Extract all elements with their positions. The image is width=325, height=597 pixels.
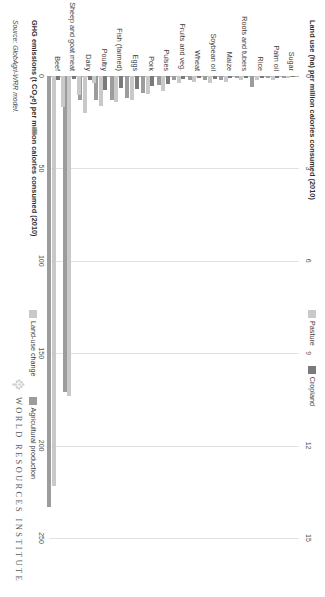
wri-brand: WORLD RESOURCES INSTITUTE: [12, 378, 25, 583]
category-label: Roots and tubers: [240, 16, 249, 71]
bar-row: Maize: [221, 76, 237, 538]
bottom-tick-label: 100: [38, 255, 45, 267]
legend-label-pasture: Pasture: [308, 321, 317, 346]
bar-pasture: [77, 76, 81, 95]
legend-item-pasture: Pasture: [308, 310, 317, 346]
legend-label-land-use-change: Land-use change: [29, 321, 38, 377]
legend-item-cropland: Cropland: [308, 366, 317, 406]
category-label: Maize: [224, 52, 233, 71]
bar-row: Eggs: [127, 76, 143, 538]
source-note: Source: GlobAgri-WRR model.: [12, 20, 19, 113]
wri-logo-icon: [12, 378, 25, 391]
chart-figure: Land use (ha) per million calories consu…: [0, 0, 325, 597]
category-label: Fruits and veg.: [177, 23, 186, 71]
bar-cropland: [275, 76, 279, 78]
bar-cropland: [119, 76, 123, 88]
bar-row: Palm oil: [268, 76, 284, 538]
bar-cropland: [166, 76, 170, 84]
bar-land-use-change: [67, 76, 71, 396]
category-label: Wheat: [193, 50, 202, 71]
category-label: Palm oil: [271, 45, 280, 71]
top-axis-title: Land use (ha) per million calories consu…: [308, 20, 317, 200]
bar-agricultural-production: [47, 76, 51, 507]
bar-land-use-change: [271, 76, 275, 80]
bar-row: Roots and tubers: [237, 76, 253, 538]
legend-swatch-land-use-change: [30, 310, 38, 318]
category-label: Fish (farmed): [115, 28, 124, 71]
bar-row: Sugar: [283, 76, 299, 538]
category-label: Pulses: [162, 49, 171, 71]
bar-row: Dairy: [80, 76, 96, 538]
bar-cropland: [135, 76, 139, 89]
bar-row: Pork: [143, 76, 159, 538]
category-label: Beef: [52, 56, 61, 71]
category-label: Dairy: [84, 54, 93, 71]
top-tick-label: 15: [305, 534, 312, 542]
bar-cropland: [181, 76, 185, 79]
category-label: Pork: [146, 56, 155, 71]
gridline: [49, 538, 299, 539]
bottom-tick-label: 200: [38, 440, 45, 452]
legend-swatch-cropland: [309, 366, 317, 374]
bar-cropland: [291, 76, 295, 77]
bar-cropland: [56, 76, 60, 80]
rotated-figure-wrapper: Land use (ha) per million calories consu…: [0, 0, 325, 597]
wri-brand-text: WORLD RESOURCES INSTITUTE: [14, 397, 23, 583]
bar-land-use-change: [286, 76, 290, 78]
legend-item-agricultural-production: Agricultural production: [29, 397, 38, 480]
bar-cropland: [260, 76, 264, 78]
bar-row: Soybean oil: [205, 76, 221, 538]
bar-cropland: [228, 76, 232, 78]
bar-cropland: [72, 76, 76, 79]
bottom-tick-label: 150: [38, 347, 45, 359]
top-tick-label: 0: [305, 74, 312, 78]
bottom-tick-label: 0: [38, 74, 45, 78]
legend-ghg: Land-use change Agricultural production: [29, 310, 38, 479]
top-tick-label: 6: [305, 259, 312, 263]
plot-area: 03691215 050100150200250 SugarPalm oilRi…: [49, 76, 299, 538]
bottom-tick-label: 250: [38, 532, 45, 544]
bar-row: Sheep and goat meat: [65, 76, 81, 538]
bar-land-use-change: [52, 76, 56, 486]
bar-row: Rice: [252, 76, 268, 538]
bar-pasture: [61, 76, 65, 107]
bar-row: Pulses: [158, 76, 174, 538]
top-tick-label: 12: [305, 442, 312, 450]
bar-land-use-change: [255, 76, 259, 80]
bar-cropland: [103, 76, 107, 90]
bar-cropland: [197, 76, 201, 78]
legend-swatch-pasture: [309, 310, 317, 318]
category-label: Sheep and goat meat: [68, 2, 77, 71]
legend-item-land-use-change: Land-use change: [29, 310, 38, 377]
legend-swatch-agricultural-production: [30, 397, 38, 405]
bar-row: Beef: [49, 76, 65, 538]
bar-land-use-change: [161, 76, 165, 91]
bar-land-use-change: [177, 76, 181, 83]
bar-land-use-change: [130, 76, 134, 100]
bar-pasture: [92, 76, 96, 83]
category-label: Rice: [255, 57, 264, 71]
legend-land-use: Pasture Cropland: [308, 310, 317, 406]
bar-row: Wheat: [190, 76, 206, 538]
bar-cropland: [213, 76, 217, 79]
bar-land-use-change: [99, 76, 103, 106]
bar-land-use-change: [239, 76, 243, 80]
category-label: Eggs: [130, 55, 139, 71]
bar-land-use-change: [146, 76, 150, 94]
bar-land-use-change: [224, 76, 228, 82]
bar-cropland: [244, 76, 248, 78]
bar-row: Fruits and veg.: [174, 76, 190, 538]
legend-label-agricultural-production: Agricultural production: [29, 408, 38, 480]
bar-land-use-change: [83, 76, 87, 113]
bar-row: Poultry: [96, 76, 112, 538]
bar-land-use-change: [208, 76, 212, 83]
bottom-tick-label: 50: [38, 164, 45, 172]
bar-cropland: [150, 76, 154, 86]
bar-row: Fish (farmed): [112, 76, 128, 538]
legend-label-cropland: Cropland: [308, 377, 317, 406]
category-label: Soybean oil: [209, 33, 218, 71]
top-tick-label: 3: [305, 166, 312, 170]
bar-cropland: [88, 76, 92, 80]
bar-rows: SugarPalm oilRiceRoots and tubersMaizeSo…: [49, 76, 299, 538]
bottom-axis-title: GHG emissions (t CO2e) per million calor…: [29, 20, 39, 237]
